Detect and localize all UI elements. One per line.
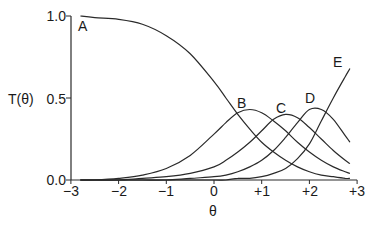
x-tick-label: −3 bbox=[63, 184, 79, 198]
x-tick-label: +2 bbox=[302, 184, 318, 198]
curve-label-d: D bbox=[305, 91, 315, 105]
x-tick-label: −1 bbox=[158, 184, 174, 198]
x-tick-label: +3 bbox=[349, 184, 365, 198]
curve-label-e: E bbox=[333, 55, 342, 69]
curve-label-c: C bbox=[276, 101, 286, 115]
x-tick-label: −2 bbox=[111, 184, 127, 198]
y-tick-label: 0.5 bbox=[26, 92, 66, 106]
curve-e bbox=[80, 69, 350, 181]
y-tick-label: 1.0 bbox=[26, 9, 66, 23]
x-axis-label: θ bbox=[209, 204, 217, 218]
chart-canvas bbox=[0, 0, 375, 226]
curve-label-a: A bbox=[78, 19, 87, 33]
curve-c bbox=[80, 114, 350, 180]
x-tick-label: 0 bbox=[210, 184, 218, 198]
y-tick-label: 0.0 bbox=[26, 173, 66, 187]
curve-label-b: B bbox=[237, 96, 246, 110]
x-tick-label: +1 bbox=[254, 184, 270, 198]
